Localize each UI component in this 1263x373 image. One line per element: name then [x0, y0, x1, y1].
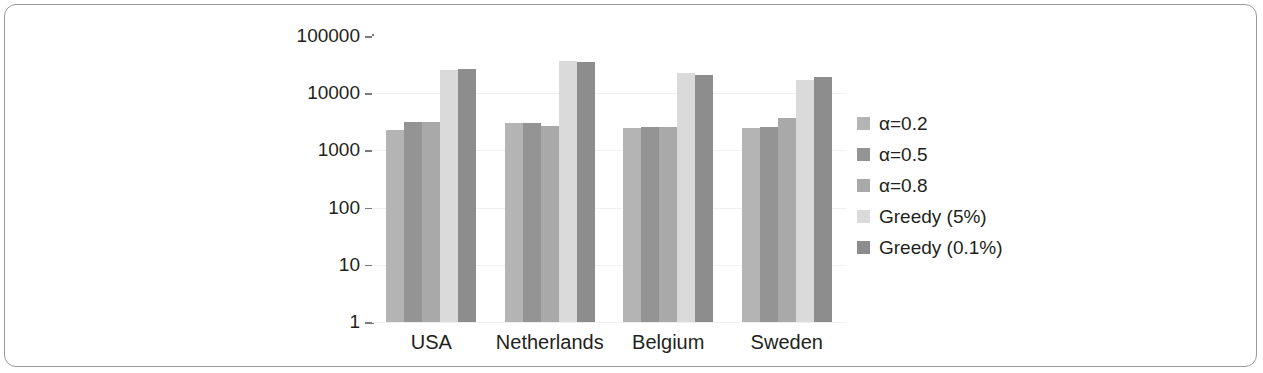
x-axis-label-netherlands: Netherlands — [491, 331, 610, 354]
bar — [659, 127, 677, 322]
y-axis-tick-mark — [365, 36, 372, 38]
y-axis-tick-mark — [365, 150, 372, 152]
bar-group-netherlands — [505, 36, 595, 322]
legend-label: α=0.8 — [879, 176, 928, 195]
bar — [742, 128, 760, 322]
gridline — [372, 322, 846, 323]
y-axis-tick-label: 100 — [328, 198, 360, 217]
bar — [505, 123, 523, 322]
bar — [641, 127, 659, 322]
bar — [577, 62, 595, 322]
legend-label: Greedy (0.1%) — [879, 238, 1003, 257]
bar — [404, 122, 422, 322]
x-axis-label-usa: USA — [372, 331, 491, 354]
bar — [623, 128, 641, 322]
legend-label: α=0.5 — [879, 145, 928, 164]
y-axis-tick-labels: 100000100001000100101 — [232, 0, 360, 373]
legend-item: Greedy (5%) — [857, 201, 1003, 232]
legend-swatch-icon — [857, 117, 870, 130]
x-axis-label-sweden: Sweden — [728, 331, 847, 354]
y-axis-tick-label: 100000 — [297, 26, 360, 45]
bar — [778, 118, 796, 322]
y-axis-tick-label: 1 — [349, 312, 360, 331]
legend-label: Greedy (5%) — [879, 207, 987, 226]
y-axis-tick-mark — [365, 208, 372, 210]
legend-item: α=0.8 — [857, 170, 1003, 201]
y-axis-tick-mark — [365, 265, 372, 267]
y-axis-tick-label: 10000 — [307, 83, 360, 102]
bar — [386, 130, 404, 322]
bar — [440, 70, 458, 322]
plot-area — [372, 36, 846, 322]
bar — [677, 73, 695, 322]
bar — [523, 123, 541, 322]
y-axis-tick-mark — [365, 322, 372, 324]
figure-chart-panel: Time (s) 100000100001000100101 USANether… — [0, 0, 1263, 373]
bar — [541, 126, 559, 322]
legend-swatch-icon — [857, 241, 870, 254]
legend-swatch-icon — [857, 210, 870, 223]
bar — [559, 61, 577, 322]
bar — [760, 127, 778, 322]
y-axis-tick-label: 10 — [339, 255, 360, 274]
bar — [422, 122, 440, 322]
legend-item: α=0.5 — [857, 139, 1003, 170]
legend-label: α=0.2 — [879, 114, 928, 133]
bar — [695, 75, 713, 322]
chart-legend: α=0.2α=0.5α=0.8Greedy (5%)Greedy (0.1%) — [857, 108, 1003, 263]
legend-item: Greedy (0.1%) — [857, 232, 1003, 263]
bar-group-usa — [386, 36, 476, 322]
bar — [458, 69, 476, 322]
bar-group-belgium — [623, 36, 713, 322]
bar — [796, 80, 814, 322]
x-axis-label-belgium: Belgium — [609, 331, 728, 354]
legend-item: α=0.2 — [857, 108, 1003, 139]
bar — [814, 77, 832, 322]
legend-swatch-icon — [857, 179, 870, 192]
legend-swatch-icon — [857, 148, 870, 161]
bar-group-sweden — [742, 36, 832, 322]
y-axis-tick-label: 1000 — [318, 140, 360, 159]
y-axis-tick-mark — [365, 93, 372, 95]
